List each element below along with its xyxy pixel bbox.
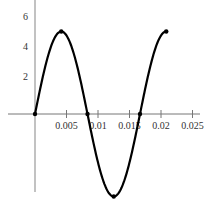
y-tick-label: 4 <box>23 41 28 52</box>
data-point-marker <box>85 112 89 116</box>
x-ticks: 0.0050.010.0150.020.025 <box>55 110 204 131</box>
data-point-marker <box>59 29 63 33</box>
data-point-marker <box>33 112 37 116</box>
y-ticks: 246 <box>23 11 28 82</box>
data-point-marker <box>112 194 116 198</box>
sine-chart: 0.0050.010.0150.020.025 246 <box>0 0 206 202</box>
x-tick-label: 0.02 <box>152 120 170 131</box>
x-tick-label: 0.005 <box>55 120 78 131</box>
data-point-marker <box>138 112 142 116</box>
x-tick-label: 0.025 <box>181 120 204 131</box>
y-tick-label: 6 <box>23 11 28 22</box>
y-tick-label: 2 <box>23 71 28 82</box>
x-tick-label: 0.01 <box>89 120 107 131</box>
data-point-marker <box>164 29 168 33</box>
